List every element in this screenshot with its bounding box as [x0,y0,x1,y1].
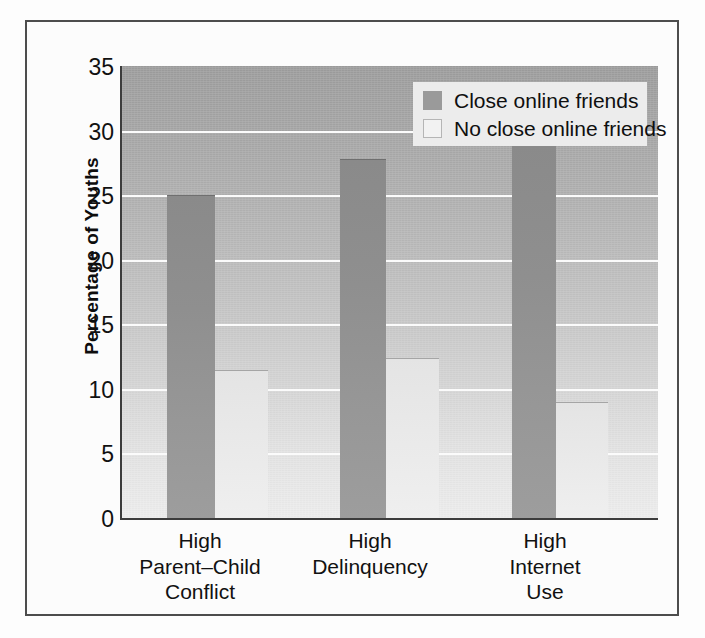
legend-swatch-icon [423,91,442,110]
legend-item-label: Close online friends [454,90,638,111]
x-tick-line: Parent–Child [120,554,280,580]
y-tick-label: 5 [70,443,114,466]
legend-item-no-close-online-friends[interactable]: No close online friends [413,114,647,142]
y-tick-label: 30 [70,121,114,144]
x-tick-line: High [465,528,625,554]
bar-no-close-online-friends-internet-use[interactable] [556,402,608,518]
x-tick-line: Use [465,579,625,605]
legend-swatch-icon [423,119,442,138]
y-tick-label: 0 [70,508,114,531]
figure-container: Percentage of Youths 35 30 25 20 15 10 5… [0,0,705,638]
y-tick-label: 10 [70,379,114,402]
bar-no-close-online-friends-parent-child-conflict[interactable] [215,370,268,519]
bar-close-online-friends-delinquency[interactable] [340,159,386,518]
x-tick-label-delinquency: High Delinquency [290,528,450,579]
chart-legend: Close online friends No close online fri… [413,82,647,146]
x-tick-label-internet-use: High Internet Use [465,528,625,605]
legend-item-close-online-friends[interactable]: Close online friends [413,86,647,114]
y-axis-ticks: 35 30 25 20 15 10 5 0 [62,0,114,638]
y-tick-label: 35 [70,56,114,79]
x-tick-line: High [120,528,280,554]
legend-item-label: No close online friends [454,118,666,139]
bar-no-close-online-friends-delinquency[interactable] [386,358,439,518]
y-tick-label: 25 [70,185,114,208]
y-tick-label: 15 [70,314,114,337]
x-tick-line: Delinquency [290,554,450,580]
x-tick-line: Conflict [120,579,280,605]
bar-close-online-friends-internet-use[interactable] [512,144,556,519]
y-axis-label-holder: Percentage of Youths [52,0,53,638]
bar-close-online-friends-parent-child-conflict[interactable] [167,195,215,518]
x-tick-line: High [290,528,450,554]
y-tick-label: 20 [70,250,114,273]
x-tick-label-parent-child-conflict: High Parent–Child Conflict [120,528,280,605]
x-tick-line: Internet [465,554,625,580]
